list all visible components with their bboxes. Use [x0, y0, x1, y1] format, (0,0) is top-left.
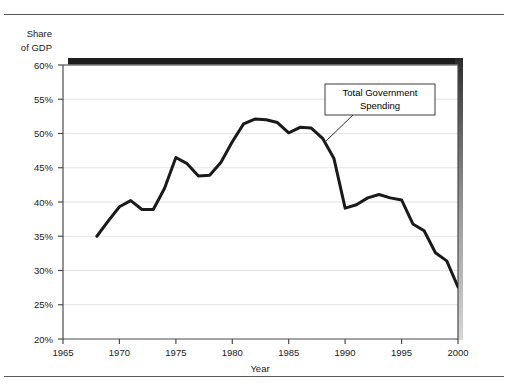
x-tick-labels: 1965 1970 1975 1980 1985 1990 1995 2000: [52, 347, 468, 358]
figure-container: 60% 55% 50% 45% 40% 35% 30% 25% 20% 1965…: [0, 0, 508, 386]
y-tick-label: 25%: [34, 299, 54, 310]
annotation-label-line1: Total Government: [343, 87, 418, 98]
chart-svg: 60% 55% 50% 45% 40% 35% 30% 25% 20% 1965…: [0, 0, 508, 386]
x-tick-label: 1985: [278, 347, 299, 358]
x-tick-label: 1970: [109, 347, 130, 358]
y-tick-labels: 60% 55% 50% 45% 40% 35% 30% 25% 20%: [34, 60, 54, 345]
y-tick-label: 30%: [34, 265, 54, 276]
x-tick-marks: [63, 339, 458, 344]
y-tick-label: 35%: [34, 231, 54, 242]
y-tick-label: 40%: [34, 197, 54, 208]
y-tick-marks: [58, 65, 63, 339]
x-axis-title: Year: [250, 363, 269, 374]
y-axis-title-line2: of GDP: [21, 42, 52, 53]
x-tick-label: 2000: [447, 347, 468, 358]
annotation-total-government-spending: Total Government Spending: [325, 84, 435, 115]
y-tick-label: 60%: [34, 60, 54, 71]
line-chart: 60% 55% 50% 45% 40% 35% 30% 25% 20% 1965…: [0, 0, 508, 386]
annotation-label-line2: Spending: [360, 100, 400, 111]
y-tick-label: 50%: [34, 128, 54, 139]
x-tick-label: 1975: [165, 347, 186, 358]
y-tick-label: 20%: [34, 334, 54, 345]
x-tick-label: 1990: [335, 347, 356, 358]
y-tick-label: 55%: [34, 94, 54, 105]
y-tick-label: 45%: [34, 162, 54, 173]
x-tick-label: 1980: [222, 347, 243, 358]
x-tick-label: 1995: [391, 347, 412, 358]
y-axis-title-line1: Share: [27, 28, 52, 39]
x-tick-label: 1965: [52, 347, 73, 358]
